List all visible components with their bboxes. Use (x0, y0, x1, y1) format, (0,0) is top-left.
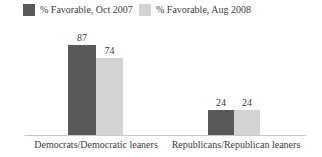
bar-column-democrats-oct-2007: 87 (68, 32, 96, 135)
legend-item-aug-2008: % Favorable, Aug 2008 (139, 4, 251, 16)
bar-column-republicans-oct-2007: 24 (208, 97, 234, 135)
bar-value-democrats-aug-2008: 74 (105, 45, 115, 56)
bar-value-republicans-aug-2008: 24 (242, 97, 252, 108)
category-label-republicans: Republicans/Republican leaners (160, 139, 312, 151)
bar-democrats-aug-2008 (96, 58, 123, 135)
favorability-bar-chart: % Favorable, Oct 2007 % Favorable, Aug 2… (0, 0, 322, 157)
x-axis-line (25, 135, 306, 136)
bar-value-republicans-oct-2007: 24 (216, 97, 226, 108)
legend-item-oct-2007: % Favorable, Oct 2007 (23, 4, 133, 16)
bar-column-republicans-aug-2008: 24 (234, 97, 260, 135)
bar-column-democrats-aug-2008: 74 (96, 45, 123, 135)
bar-democrats-oct-2007 (68, 45, 96, 135)
legend-swatch-oct-2007 (23, 4, 35, 16)
bar-value-democrats-oct-2007: 87 (77, 32, 87, 43)
bar-republicans-oct-2007 (208, 110, 234, 135)
category-label-democrats: Democrats/Democratic leaners (20, 139, 172, 151)
legend-label-aug-2008: % Favorable, Aug 2008 (156, 4, 251, 16)
legend-label-oct-2007: % Favorable, Oct 2007 (40, 4, 133, 16)
legend-swatch-aug-2008 (139, 4, 151, 16)
bar-republicans-aug-2008 (234, 110, 260, 135)
